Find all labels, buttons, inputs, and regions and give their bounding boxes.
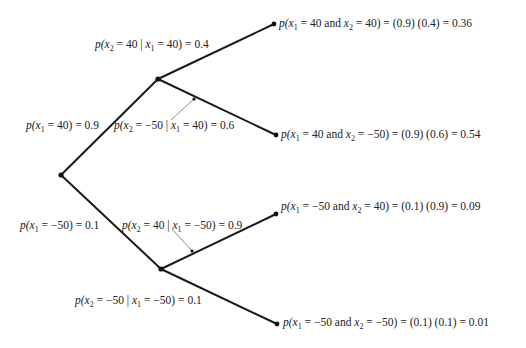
node-mid-upper [155,76,160,81]
leaf-label-3: p(x1 = −50 and x2 = 40) = (0.1) (0.9) = … [281,200,481,213]
edge-upper-to-leaf1 [158,24,274,79]
pointer-upper-dot [192,97,195,100]
label-p-x2-40-given-x1-neg50: p(x2 = 40 | x1 = −50) = 0.9 [122,219,242,232]
node-root [58,172,63,177]
probability-tree-diagram: p(x2 = 40 | x1 = 40) = 0.4 p(x1 = 40) = … [0,0,526,348]
leaf-label-1: p(x1 = 40 and x2 = 40) = (0.9) (0.4) = 0… [279,17,472,30]
label-p-x1-40: p(x1 = 40) = 0.9 [26,119,99,132]
pointer-upper [171,99,194,120]
node-leaf-3 [274,212,279,217]
label-p-x2-neg50-given-x1-neg50: p(x2 = −50 | x1 = −50) = 0.1 [75,294,202,307]
pointer-lower-dot [190,249,193,252]
node-leaf-2 [274,133,279,138]
node-leaf-1 [272,22,277,27]
leaf-label-4: p(x1 = −50 and x2 = −50) = (0.1) (0.1) =… [283,316,489,329]
pointer-lower [172,229,192,251]
label-p-x1-neg50: p(x1 = −50) = 0.1 [20,219,99,232]
node-mid-lower [158,266,163,271]
label-p-x2-neg50-given-x1-40: p(x2 = −50 | x1 = 40) = 0.6 [114,119,234,132]
leaf-label-2: p(x1 = 40 and x2 = −50) = (0.9) (0.6) = … [281,128,481,141]
label-p-x2-40-given-x1-40: p(x2 = 40 | x1 = 40) = 0.4 [95,38,209,51]
node-leaf-4 [275,322,280,327]
